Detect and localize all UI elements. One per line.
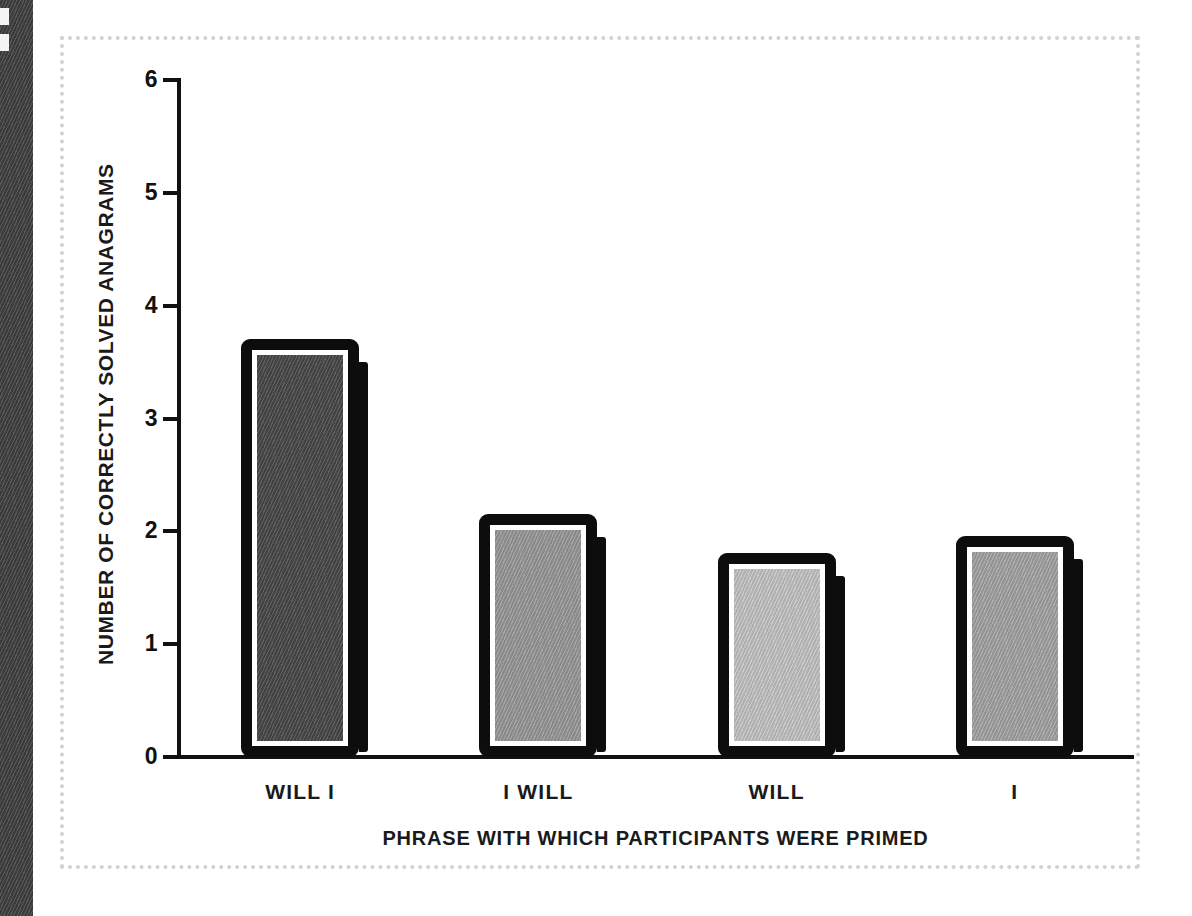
y-axis-tick-label: 5 (112, 181, 158, 204)
bar-4 (956, 536, 1074, 757)
y-axis-tick-label: 0 (112, 745, 158, 768)
y-axis-tick (163, 78, 179, 82)
x-axis-title: PHRASE WITH WHICH PARTICIPANTS WERE PRIM… (177, 827, 1134, 850)
y-axis-tick (163, 642, 179, 646)
y-axis-tick-label: 6 (112, 68, 158, 91)
y-axis-tick-label: 3 (112, 407, 158, 430)
y-axis-tick (163, 417, 179, 421)
y-axis-tick-label: 1 (112, 632, 158, 655)
x-axis-tick-label-2: I WILL (419, 780, 657, 804)
y-axis-tick (163, 755, 179, 759)
bar-chart-plot: 0123456 NUMBER OF CORRECTLY SOLVED ANAGR… (0, 0, 1192, 916)
y-axis-tick-label: 2 (112, 519, 158, 542)
bar-3 (718, 553, 836, 757)
y-axis-tick (163, 191, 179, 195)
bar-fill (495, 530, 581, 741)
x-axis-tick-label-1: WILL I (181, 780, 419, 804)
chart-page: 0123456 NUMBER OF CORRECTLY SOLVED ANAGR… (0, 0, 1192, 916)
bar-fill (972, 552, 1058, 741)
bar-1 (241, 339, 359, 757)
x-axis-tick-label-4: I (896, 780, 1134, 804)
x-axis-tick-label-3: WILL (658, 780, 896, 804)
y-axis-title: NUMBER OF CORRECTLY SOLVED ANAGRAMS (94, 195, 118, 665)
bar-fill (734, 569, 820, 741)
y-axis-tick (163, 304, 179, 308)
bar-fill (257, 355, 343, 741)
y-axis-tick (163, 529, 179, 533)
y-axis-tick-label: 4 (112, 294, 158, 317)
bar-2 (479, 514, 597, 757)
